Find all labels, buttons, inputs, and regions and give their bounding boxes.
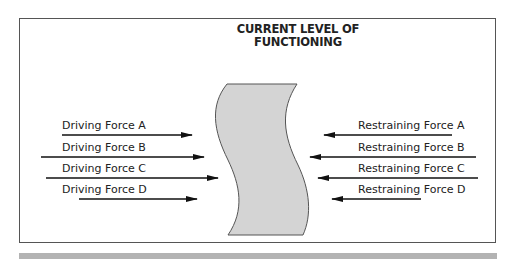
restraining-force-d-label: Restraining Force D <box>358 183 466 196</box>
driving-force-c-label: Driving Force C <box>62 162 146 175</box>
bottom-rule-bar <box>19 253 497 259</box>
current-level-shape <box>215 84 308 235</box>
restraining-force-c-label: Restraining Force C <box>358 162 465 175</box>
driving-force-b-label: Driving Force B <box>62 141 146 154</box>
driving-force-d-label: Driving Force D <box>62 183 147 196</box>
driving-force-a-label: Driving Force A <box>62 119 146 132</box>
restraining-force-a-label: Restraining Force A <box>358 119 465 132</box>
restraining-force-b-label: Restraining Force B <box>358 141 465 154</box>
